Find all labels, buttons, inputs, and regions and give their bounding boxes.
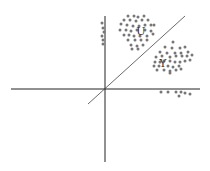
data-point bbox=[123, 19, 126, 22]
data-point bbox=[159, 51, 162, 54]
data-point bbox=[164, 46, 167, 49]
data-point bbox=[174, 52, 177, 55]
data-point bbox=[134, 39, 137, 42]
axes bbox=[11, 16, 200, 162]
data-point bbox=[169, 72, 172, 75]
data-point bbox=[154, 61, 157, 64]
data-point bbox=[101, 35, 104, 38]
data-point bbox=[146, 39, 149, 42]
data-point bbox=[153, 24, 156, 27]
data-point bbox=[186, 55, 189, 58]
data-point bbox=[133, 15, 136, 18]
data-point bbox=[179, 47, 182, 50]
data-point bbox=[189, 93, 192, 96]
data-point bbox=[143, 15, 146, 18]
data-point bbox=[187, 51, 190, 54]
data-point bbox=[180, 91, 183, 94]
cluster-label: U bbox=[136, 25, 145, 38]
data-point bbox=[172, 41, 175, 44]
data-point bbox=[191, 54, 194, 57]
data-point bbox=[171, 47, 174, 50]
data-point bbox=[102, 43, 105, 46]
data-point bbox=[166, 52, 169, 55]
data-point bbox=[128, 34, 131, 37]
data-point bbox=[130, 44, 133, 47]
data-point bbox=[131, 48, 134, 51]
data-point bbox=[180, 68, 183, 71]
data-point bbox=[167, 91, 170, 94]
data-point bbox=[103, 31, 106, 34]
data-point bbox=[123, 34, 126, 37]
data-point bbox=[120, 23, 123, 26]
data-point bbox=[102, 27, 105, 30]
data-point bbox=[133, 35, 136, 38]
data-point bbox=[150, 24, 153, 27]
classification-diagram: UY bbox=[0, 0, 210, 171]
data-point bbox=[160, 91, 163, 94]
data-point bbox=[178, 65, 181, 68]
data-points bbox=[101, 15, 194, 98]
data-point bbox=[102, 39, 105, 42]
data-point bbox=[137, 48, 140, 51]
data-point bbox=[181, 55, 184, 58]
data-point bbox=[169, 56, 172, 59]
data-point bbox=[130, 30, 133, 33]
data-point bbox=[180, 52, 183, 55]
data-point bbox=[147, 19, 150, 22]
data-point bbox=[119, 29, 122, 32]
data-point bbox=[172, 66, 175, 69]
data-point bbox=[169, 60, 172, 63]
data-point bbox=[184, 46, 187, 49]
data-point bbox=[184, 60, 187, 63]
data-point bbox=[141, 19, 144, 22]
data-point bbox=[129, 19, 132, 22]
data-point bbox=[125, 29, 128, 32]
data-point bbox=[136, 45, 139, 48]
data-point bbox=[142, 44, 145, 47]
data-point bbox=[179, 61, 182, 64]
data-point bbox=[150, 30, 153, 33]
data-point bbox=[127, 39, 130, 42]
data-point bbox=[135, 20, 138, 23]
data-point bbox=[174, 61, 177, 64]
data-point bbox=[175, 91, 178, 94]
data-point bbox=[146, 35, 149, 38]
cluster-label: Y bbox=[158, 57, 167, 70]
data-point bbox=[178, 95, 181, 98]
data-point bbox=[153, 65, 156, 68]
data-point bbox=[140, 39, 143, 42]
data-point bbox=[152, 33, 155, 36]
data-point bbox=[127, 15, 130, 18]
data-point bbox=[132, 25, 135, 28]
data-point bbox=[167, 65, 170, 68]
data-point bbox=[126, 24, 129, 27]
data-point bbox=[189, 59, 192, 62]
data-point bbox=[175, 69, 178, 72]
data-point bbox=[101, 22, 104, 25]
data-point bbox=[137, 16, 140, 19]
data-point bbox=[184, 92, 187, 95]
data-point bbox=[155, 56, 158, 59]
data-point bbox=[175, 55, 178, 58]
data-point bbox=[156, 69, 159, 72]
